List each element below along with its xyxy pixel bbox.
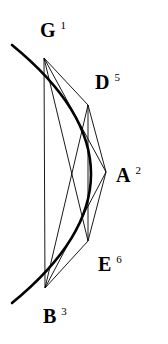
vertex-letter-e: E — [98, 253, 111, 275]
geometric-figure — [0, 0, 168, 344]
vertex-index-e: 6 — [116, 253, 122, 265]
chord-g-e — [44, 58, 88, 241]
vertex-index-b: 3 — [61, 305, 67, 317]
vertex-index-a: 2 — [135, 164, 141, 176]
diagram-canvas: G1D5A2E6B3 — [0, 0, 168, 344]
vertex-label-a: A2 — [116, 165, 141, 185]
vertex-label-b: B3 — [43, 306, 67, 326]
vertex-letter-d: D — [95, 71, 109, 93]
chord-g-b — [44, 58, 45, 288]
vertex-label-d: D5 — [95, 72, 120, 92]
vertex-letter-g: G — [40, 19, 56, 41]
vertex-index-d: 5 — [114, 71, 120, 83]
vertex-letter-a: A — [116, 164, 130, 186]
vertex-index-g: 1 — [61, 19, 67, 31]
vertex-label-e: E6 — [98, 254, 122, 274]
vertex-letter-b: B — [43, 305, 56, 327]
vertex-label-g: G1 — [40, 20, 66, 40]
outer-arc — [12, 45, 91, 303]
